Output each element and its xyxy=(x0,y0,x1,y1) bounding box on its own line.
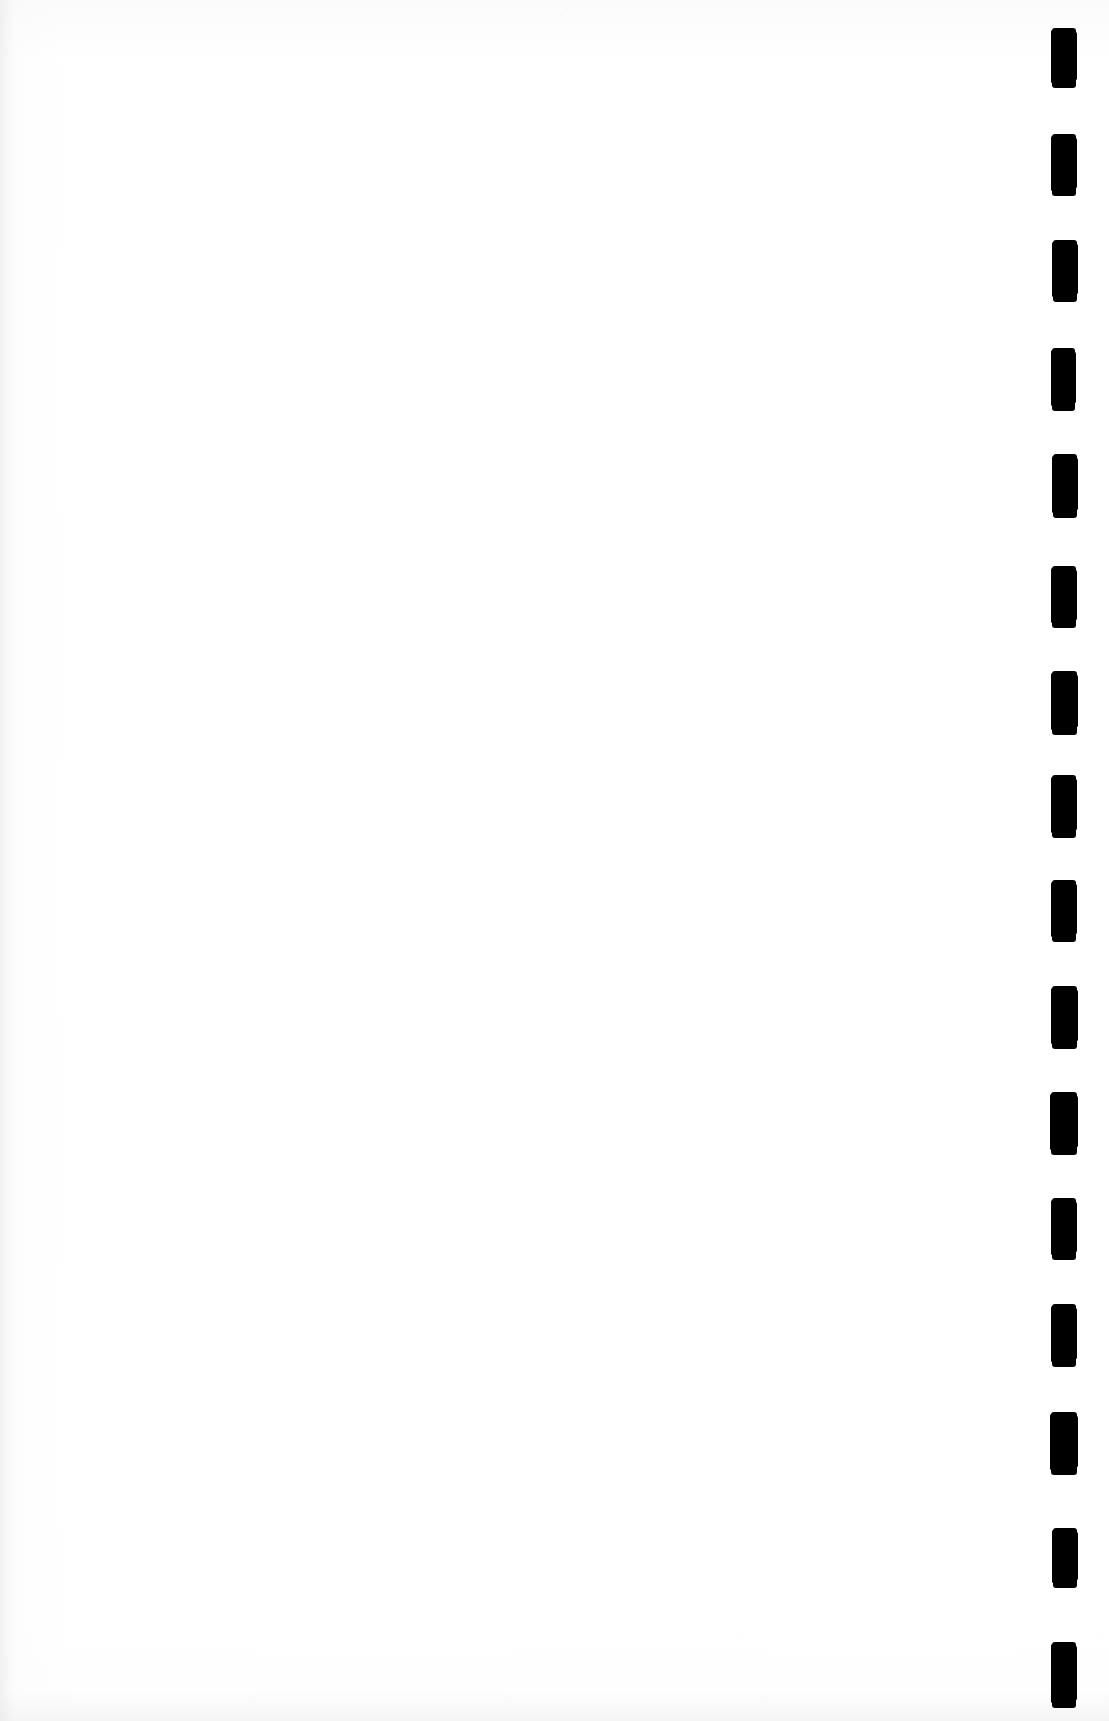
scanned-page xyxy=(0,0,1109,1721)
registration-mark xyxy=(1051,1092,1077,1155)
registration-mark xyxy=(1052,1642,1076,1708)
registration-mark xyxy=(1052,775,1076,838)
registration-mark xyxy=(1053,240,1077,302)
registration-mark xyxy=(1052,986,1077,1049)
registration-mark-column xyxy=(0,0,1109,1721)
registration-mark xyxy=(1053,1528,1077,1588)
registration-mark xyxy=(1052,1198,1076,1260)
registration-mark xyxy=(1052,134,1076,196)
registration-mark xyxy=(1053,454,1077,518)
registration-mark xyxy=(1052,671,1077,735)
registration-mark xyxy=(1051,1412,1077,1475)
registration-mark xyxy=(1052,1304,1076,1367)
registration-mark xyxy=(1052,880,1076,942)
registration-mark xyxy=(1052,566,1076,628)
registration-mark xyxy=(1052,28,1076,88)
registration-mark xyxy=(1052,348,1075,411)
